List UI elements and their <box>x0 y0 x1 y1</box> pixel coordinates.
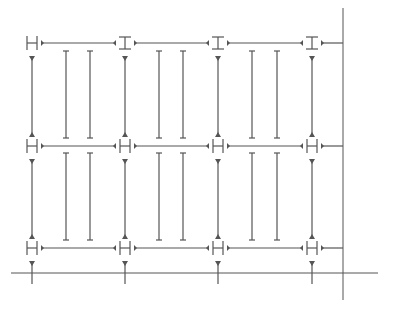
arrow-down-icon <box>309 261 315 266</box>
arrow-right-icon <box>41 143 44 149</box>
arrow-down-icon <box>309 56 315 61</box>
arrow-up-icon <box>122 234 128 239</box>
arrow-down-icon <box>309 159 315 164</box>
truss-diagram <box>0 0 393 315</box>
arrow-right-icon <box>134 143 137 149</box>
arrow-right-icon <box>227 143 230 149</box>
arrow-left-icon <box>300 143 303 149</box>
arrow-right-icon <box>227 245 230 251</box>
arrow-right-icon <box>321 40 324 46</box>
arrow-down-icon <box>215 56 221 61</box>
arrow-left-icon <box>113 40 116 46</box>
arrow-down-icon <box>122 261 128 266</box>
arrow-up-icon <box>309 132 315 137</box>
arrow-down-icon <box>122 159 128 164</box>
arrow-right-icon <box>41 40 44 46</box>
arrow-right-icon <box>321 143 324 149</box>
arrow-left-icon <box>113 245 116 251</box>
arrow-up-icon <box>122 132 128 137</box>
arrow-down-icon <box>215 261 221 266</box>
arrow-up-icon <box>29 132 35 137</box>
arrow-right-icon <box>41 245 44 251</box>
arrow-right-icon <box>134 40 137 46</box>
arrow-right-icon <box>227 40 230 46</box>
arrow-left-icon <box>206 245 209 251</box>
arrow-left-icon <box>300 245 303 251</box>
arrow-left-icon <box>113 143 116 149</box>
arrow-down-icon <box>29 261 35 266</box>
arrow-left-icon <box>206 143 209 149</box>
arrow-down-icon <box>215 159 221 164</box>
arrow-up-icon <box>215 234 221 239</box>
arrow-left-icon <box>300 40 303 46</box>
arrow-right-icon <box>134 245 137 251</box>
arrow-down-icon <box>29 159 35 164</box>
arrow-up-icon <box>215 132 221 137</box>
arrow-up-icon <box>29 234 35 239</box>
arrow-left-icon <box>206 40 209 46</box>
arrow-down-icon <box>29 56 35 61</box>
arrow-right-icon <box>321 245 324 251</box>
arrow-up-icon <box>309 234 315 239</box>
arrow-down-icon <box>122 56 128 61</box>
